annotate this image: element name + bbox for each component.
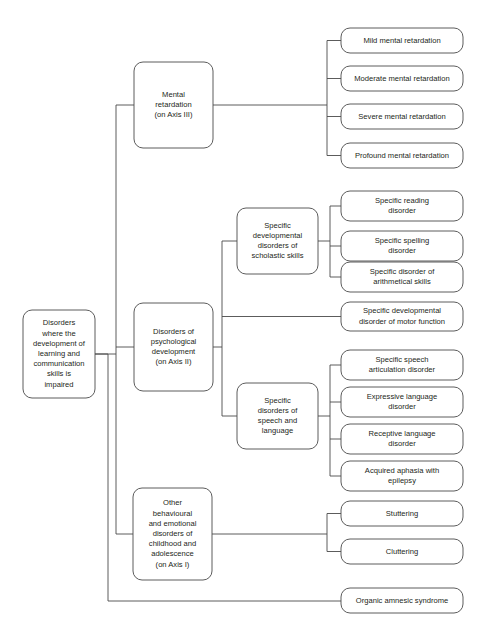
node-label-line: impaired <box>44 380 73 389</box>
node-label-line: epilepsy <box>388 476 416 485</box>
node-expressive-language-disorder[interactable]: Expressive languagedisorder <box>341 387 463 417</box>
node-label-line: Moderate mental retardation <box>354 74 449 83</box>
node-label-line: Other <box>163 498 182 507</box>
node-label-line: Specific reading <box>375 196 429 205</box>
node-label-line: Acquired aphasia with <box>365 466 439 475</box>
node-label-line: Stuttering <box>386 509 419 518</box>
node-cluttering[interactable]: Cluttering <box>341 539 463 564</box>
node-label-line: Specific spelling <box>375 236 429 245</box>
node-label-line: Specific disorder of <box>370 267 435 276</box>
node-label-line: childhood and <box>149 539 196 548</box>
connector-layer <box>95 41 341 602</box>
node-stuttering[interactable]: Stuttering <box>341 501 463 526</box>
node-other-behavioural-and-emotional-disorders[interactable]: Otherbehaviouraland emotionaldisorders o… <box>133 488 212 580</box>
node-label-specific-speech-articulation-disorder: Specific speecharticulation disorder <box>369 355 436 374</box>
node-label-line: Disorders <box>43 318 76 327</box>
node-specific-speech-articulation-disorder[interactable]: Specific speecharticulation disorder <box>341 350 463 380</box>
node-label-line: disorders of <box>153 529 194 538</box>
node-label-line: disorders of <box>258 406 299 415</box>
node-severe-mental-retardation[interactable]: Severe mental retardation <box>341 104 463 129</box>
node-label-specific-disorder-of-arithmetical-skills: Specific disorder ofarithmetical skills <box>370 267 435 286</box>
node-label-profound-mental-retardation: Profound mental retardation <box>355 151 449 160</box>
node-label-specific-developmental-disorder-of-motor-function: Specific developmentaldisorder of motor … <box>359 306 445 325</box>
node-label-line: retardation <box>155 100 191 109</box>
node-label-line: arithmetical skills <box>373 277 431 286</box>
node-label-line: development of <box>33 339 86 348</box>
node-label-line: disorder <box>388 206 416 215</box>
node-label-line: Severe mental retardation <box>358 112 445 121</box>
node-label-line: communication <box>33 359 84 368</box>
node-label-line: adolescence <box>151 549 194 558</box>
node-label-line: development <box>152 347 196 356</box>
node-specific-spelling-disorder[interactable]: Specific spellingdisorder <box>341 231 463 261</box>
node-label-line: learning and <box>38 349 80 358</box>
node-disorders-of-psychological-development[interactable]: Disorders ofpsychologicaldevelopment(on … <box>134 303 213 391</box>
node-label-other-behavioural-and-emotional-disorders: Otherbehaviouraland emotionaldisorders o… <box>149 498 197 568</box>
node-label-organic-amnesic-syndrome: Organic amnesic syndrome <box>356 596 448 605</box>
node-label-line: disorders of <box>258 241 299 250</box>
node-label-mild-mental-retardation: Mild mental retardation <box>363 36 440 45</box>
node-label-line: and emotional <box>149 519 197 528</box>
node-profound-mental-retardation[interactable]: Profound mental retardation <box>341 143 463 168</box>
node-acquired-aphasia-with-epilepsy[interactable]: Acquired aphasia withepilepsy <box>341 461 463 491</box>
node-label-line: Specific speech <box>375 355 428 364</box>
node-specific-disorders-of-speech-and-language[interactable]: Specificdisorders ofspeech andlanguage <box>237 383 318 449</box>
node-label-line: Specific <box>264 396 291 405</box>
node-moderate-mental-retardation[interactable]: Moderate mental retardation <box>341 66 463 91</box>
node-label-line: Profound mental retardation <box>355 151 449 160</box>
node-label-line: Receptive language <box>368 429 435 438</box>
node-label-moderate-mental-retardation: Moderate mental retardation <box>354 74 449 83</box>
node-label-line: (on Axis I) <box>156 560 190 569</box>
node-label-line: disorder <box>388 402 416 411</box>
node-label-line: Mild mental retardation <box>363 36 440 45</box>
node-specific-developmental-disorders-of-scholastic-skills[interactable]: Specificdevelopmentaldisorders ofscholas… <box>237 208 318 274</box>
node-label-line: disorder of motor function <box>359 317 445 326</box>
node-label-line: disorder <box>388 439 416 448</box>
flowchart-canvas: Disorderswhere thedevelopment oflearning… <box>0 0 481 634</box>
node-label-line: language <box>262 426 293 435</box>
node-label-line: Specific <box>264 221 291 230</box>
node-label-line: (on Axis III) <box>155 110 193 119</box>
node-label-line: speech and <box>258 416 297 425</box>
node-root[interactable]: Disorderswhere thedevelopment oflearning… <box>23 310 95 398</box>
node-label-line: (on Axis II) <box>156 357 192 366</box>
node-label-stuttering: Stuttering <box>386 509 419 518</box>
node-label-line: disorder <box>388 246 416 255</box>
node-label-line: developmental <box>253 231 303 240</box>
node-label-line: behavioural <box>153 509 193 518</box>
node-mental-retardation[interactable]: Mentalretardation(on Axis III) <box>134 62 213 148</box>
flowchart-svg: Disorderswhere thedevelopment oflearning… <box>0 0 481 634</box>
node-label-line: psychological <box>151 337 197 346</box>
node-specific-developmental-disorder-of-motor-function[interactable]: Specific developmentaldisorder of motor … <box>341 302 463 331</box>
node-label-disorders-of-psychological-development: Disorders ofpsychologicaldevelopment(on … <box>151 327 197 367</box>
node-specific-disorder-of-arithmetical-skills[interactable]: Specific disorder ofarithmetical skills <box>341 262 463 292</box>
node-layer: Disorderswhere thedevelopment oflearning… <box>23 28 463 613</box>
node-mild-mental-retardation[interactable]: Mild mental retardation <box>341 28 463 53</box>
node-label-cluttering: Cluttering <box>386 547 419 556</box>
node-label-line: Cluttering <box>386 547 419 556</box>
node-label-line: Specific developmental <box>363 306 441 315</box>
node-label-line: Expressive language <box>367 392 438 401</box>
node-label-line: articulation disorder <box>369 365 436 374</box>
node-label-line: skills is <box>47 369 71 378</box>
node-label-line: Disorders of <box>153 327 195 336</box>
node-label-severe-mental-retardation: Severe mental retardation <box>358 112 445 121</box>
node-organic-amnesic-syndrome[interactable]: Organic amnesic syndrome <box>341 588 463 613</box>
node-specific-reading-disorder[interactable]: Specific readingdisorder <box>341 191 463 221</box>
node-label-line: Mental <box>162 90 185 99</box>
node-label-line: Organic amnesic syndrome <box>356 596 448 605</box>
node-label-line: where the <box>41 329 75 338</box>
node-receptive-language-disorder[interactable]: Receptive languagedisorder <box>341 424 463 454</box>
node-label-line: scholastic skills <box>252 251 304 260</box>
